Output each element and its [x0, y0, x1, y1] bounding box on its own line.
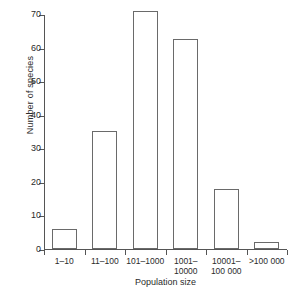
- y-tick-label: 70: [31, 9, 41, 19]
- x-tick-mark: [85, 250, 86, 255]
- x-axis-title: Population size: [44, 277, 287, 287]
- x-tick-mark: [125, 250, 126, 255]
- bar: [52, 229, 77, 249]
- chart-figure: Number of species 010203040506070 1–1011…: [0, 0, 297, 299]
- x-tick-mark: [206, 250, 207, 255]
- bar: [214, 189, 239, 249]
- y-tick-label: 60: [31, 43, 41, 53]
- y-tick-label: 0: [36, 244, 41, 254]
- bar: [173, 39, 198, 249]
- bar: [133, 11, 158, 249]
- plot-area: 010203040506070 1–1011–100101–10001001– …: [44, 15, 287, 250]
- y-tick-label: 50: [31, 76, 41, 86]
- x-tick-mark: [44, 250, 45, 255]
- x-tick-mark: [287, 250, 288, 255]
- y-axis-line: [44, 15, 45, 250]
- y-tick-label: 30: [31, 143, 41, 153]
- x-tick-mark: [247, 250, 248, 255]
- y-tick-label: 20: [31, 177, 41, 187]
- bar: [254, 242, 279, 249]
- x-tick-mark: [166, 250, 167, 255]
- x-tick-label: >100 000: [241, 256, 294, 266]
- bar: [92, 131, 117, 249]
- y-tick-label: 40: [31, 110, 41, 120]
- y-tick-label: 10: [31, 210, 41, 220]
